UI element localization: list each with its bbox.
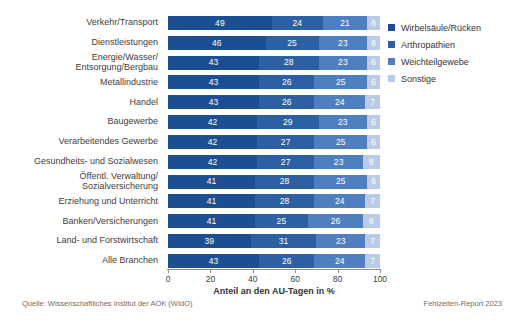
bar-segment: 6 (367, 175, 380, 189)
bar-value-label: 41 (207, 177, 217, 186)
category-label: Verarbeitendes Gewerbe (0, 135, 163, 149)
bar-segment: 29 (257, 115, 318, 129)
bar-segment: 6 (367, 56, 380, 70)
bar-row: 4326247 (168, 254, 380, 268)
legend-item[interactable]: Wirbelsäule/Rücken (388, 19, 518, 36)
bar-value-label: 8 (369, 217, 374, 226)
bar-value-label: 24 (335, 197, 345, 206)
bar-segment: 28 (255, 194, 314, 208)
bar-segment: 42 (168, 155, 257, 169)
bar-row: 4625236 (168, 36, 380, 50)
bar-segment: 7 (365, 194, 380, 208)
bar-value-label: 23 (338, 58, 348, 67)
bar-value-label: 28 (280, 177, 290, 186)
stacked-bar-chart: Verkehr/TransportDienstleistungenEnergie… (0, 0, 522, 335)
bar-segment: 23 (319, 36, 368, 50)
bar-value-label: 6 (371, 39, 376, 48)
bar-value-label: 26 (282, 78, 292, 87)
plot-area: 4924216462523643282364326256432624742292… (168, 16, 380, 268)
bar-value-label: 43 (209, 78, 219, 87)
category-label: Gesundheits- und Sozialwesen (0, 155, 163, 169)
bar-value-label: 42 (208, 138, 218, 147)
bar-value-label: 6 (371, 118, 376, 127)
bar-segment: 7 (365, 254, 380, 268)
footer-report: Fehlzeiten-Report 2023 (424, 299, 502, 308)
bar-value-label: 6 (371, 78, 376, 87)
bar-segment: 25 (266, 36, 319, 50)
legend-label: Weichteilgewebe (401, 57, 469, 67)
bar-segment: 26 (308, 214, 363, 228)
bar-value-label: 21 (340, 19, 350, 28)
bar-value-label: 6 (371, 177, 376, 186)
bar-segment: 43 (168, 56, 259, 70)
bar-segment: 23 (314, 155, 363, 169)
bar-segment: 42 (168, 115, 257, 129)
bar-row: 3931237 (168, 234, 380, 248)
category-axis-labels: Verkehr/TransportDienstleistungenEnergie… (0, 16, 163, 268)
bar-segment: 24 (272, 16, 323, 30)
bar-value-label: 28 (280, 197, 290, 206)
legend-label: Arthropathien (401, 40, 455, 50)
legend-item[interactable]: Arthropathien (388, 36, 518, 53)
x-tick-label: 80 (333, 274, 342, 284)
bar-value-label: 23 (338, 39, 348, 48)
bar-segment: 41 (168, 214, 255, 228)
bar-value-label: 39 (205, 237, 215, 246)
bar-segment: 27 (257, 135, 314, 149)
bar-segment: 26 (259, 95, 314, 109)
bar-value-label: 7 (370, 197, 375, 206)
bar-row: 4229236 (168, 115, 380, 129)
bar-value-label: 7 (370, 98, 375, 107)
bar-segment: 41 (168, 194, 255, 208)
bar-row: 4128256 (168, 175, 380, 189)
legend-label: Sonstige (401, 74, 436, 84)
bar-segment: 6 (367, 135, 380, 149)
bar-value-label: 41 (207, 197, 217, 206)
bar-value-label: 7 (370, 257, 375, 266)
bar-segment: 25 (314, 75, 367, 89)
bar-value-label: 28 (284, 58, 294, 67)
bar-segment: 42 (168, 135, 257, 149)
bar-value-label: 24 (292, 19, 302, 28)
x-tick-mark (380, 269, 381, 273)
x-tick-label: 60 (290, 274, 299, 284)
x-axis-line (167, 269, 381, 270)
bar-value-label: 8 (369, 158, 374, 167)
bar-value-label: 25 (336, 138, 346, 147)
x-tick-mark (295, 269, 296, 273)
bar-value-label: 23 (334, 158, 344, 167)
legend-item[interactable]: Sonstige (388, 70, 518, 87)
bar-value-label: 7 (370, 237, 375, 246)
bar-segment: 8 (363, 214, 380, 228)
bar-segment: 31 (251, 234, 317, 248)
bar-segment: 6 (367, 36, 380, 50)
bar-row: 4326256 (168, 75, 380, 89)
legend-item[interactable]: Weichteilgewebe (388, 53, 518, 70)
bar-value-label: 43 (209, 257, 219, 266)
bar-value-label: 26 (282, 257, 292, 266)
bar-segment: 25 (314, 175, 367, 189)
bar-segment: 26 (259, 254, 314, 268)
bar-value-label: 26 (282, 98, 292, 107)
bar-row: 4326247 (168, 95, 380, 109)
category-label: Baugewerbe (0, 115, 163, 129)
bar-segment: 24 (314, 254, 365, 268)
bar-value-label: 42 (208, 118, 218, 127)
bar-row: 4227238 (168, 155, 380, 169)
x-tick-label: 100 (373, 274, 387, 284)
x-tick-mark (168, 269, 169, 273)
bar-segment: 7 (365, 234, 380, 248)
bar-segment: 6 (367, 75, 380, 89)
bar-row: 4125268 (168, 214, 380, 228)
x-tick-label: 20 (206, 274, 215, 284)
bar-segment: 27 (257, 155, 314, 169)
x-tick-mark (338, 269, 339, 273)
bar-value-label: 41 (207, 217, 217, 226)
bar-segment: 26 (259, 75, 314, 89)
category-label: Metallindustrie (0, 75, 163, 89)
bar-segment: 28 (255, 175, 314, 189)
bar-value-label: 6 (371, 138, 376, 147)
bar-value-label: 29 (283, 118, 293, 127)
footer-source: Quelle: Wissenschaftliches Institut der … (22, 299, 192, 308)
bar-segment: 24 (314, 194, 365, 208)
